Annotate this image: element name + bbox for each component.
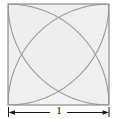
geometry-figure: 1 bbox=[0, 0, 118, 119]
dimension-label: 1 bbox=[0, 104, 118, 116]
arc-shaded-regions bbox=[8, 4, 109, 105]
geometry-canvas bbox=[0, 0, 118, 119]
